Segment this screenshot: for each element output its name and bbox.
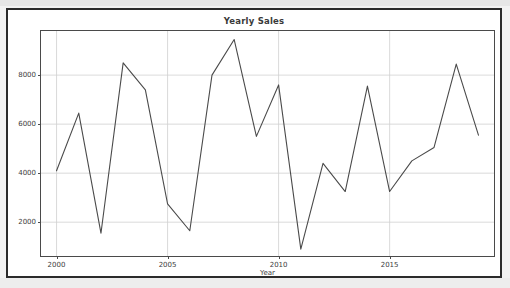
x-tick-mark	[279, 256, 280, 259]
page-edge-bottom	[0, 278, 510, 288]
plot-svg	[41, 31, 494, 256]
x-tick-label: 2010	[270, 261, 288, 269]
x-tick-mark	[168, 256, 169, 259]
x-tick-mark	[57, 256, 58, 259]
page-canvas: Yearly Sales 2000400060008000 2000200520…	[0, 0, 510, 288]
y-tick-mark	[38, 173, 41, 174]
gridlines-horizontal	[41, 75, 494, 222]
y-tick-mark	[38, 222, 41, 223]
chart-title: Yearly Sales	[8, 16, 500, 26]
y-tick-label: 8000	[18, 71, 36, 79]
sales-line-series	[57, 40, 479, 250]
x-tick-label: 2000	[48, 261, 66, 269]
figure-frame: Yearly Sales 2000400060008000 2000200520…	[6, 8, 502, 278]
y-tick-label: 4000	[18, 169, 36, 177]
y-tick-label: 6000	[18, 120, 36, 128]
y-tick-mark	[38, 124, 41, 125]
x-tick-mark	[390, 256, 391, 259]
y-tick-label: 2000	[18, 218, 36, 226]
x-tick-label: 2005	[159, 261, 177, 269]
plot-area: 2000400060008000 2000200520102015	[40, 30, 495, 257]
x-axis-label: Year	[40, 269, 495, 277]
page-edge-top	[0, 0, 510, 6]
y-tick-mark	[38, 75, 41, 76]
x-tick-label: 2015	[381, 261, 399, 269]
